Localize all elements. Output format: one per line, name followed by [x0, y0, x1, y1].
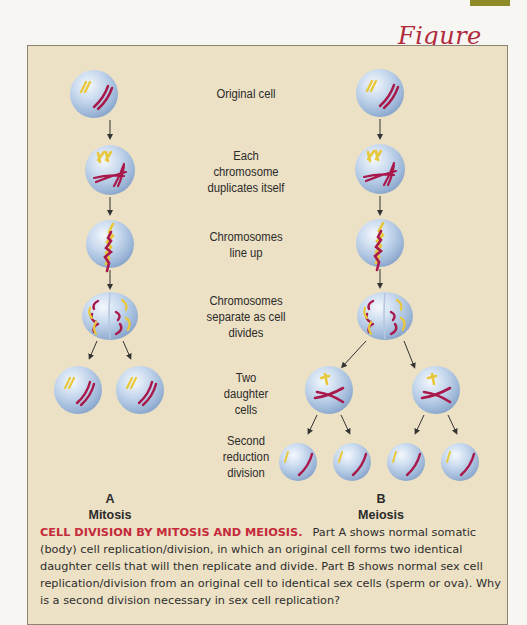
meiosis-column	[279, 69, 479, 481]
stage-line: duplicates itself	[183, 180, 309, 196]
stage-label-original-cell: Original cell	[183, 86, 309, 102]
stage-line: chromosome	[183, 164, 309, 180]
stage-label-duplicate: Each chromosome duplicates itself	[183, 148, 309, 196]
column-name: Mitosis	[60, 507, 160, 523]
stage-line: daughter	[183, 386, 309, 402]
stage-line: Each	[183, 148, 309, 164]
stage-line: cells	[183, 402, 309, 418]
stage-line: reduction	[183, 449, 309, 465]
stage-line: division	[183, 465, 309, 481]
stage-label-separate: Chromosomes separate as cell divides	[183, 293, 309, 341]
caption-title: CELL DIVISION BY MITOSIS AND MEIOSIS.	[40, 526, 303, 539]
stage-line: divides	[183, 325, 309, 341]
stage-line: Second	[183, 433, 309, 449]
column-letter: B	[331, 491, 431, 507]
column-label-meiosis: B Meiosis	[331, 491, 431, 523]
column-name: Meiosis	[331, 507, 431, 523]
stage-line: Two	[183, 370, 309, 386]
column-label-mitosis: A Mitosis	[60, 491, 160, 523]
stage-label-line-up: Chromosomes line up	[183, 229, 309, 261]
stage-line: Chromosomes	[183, 293, 309, 309]
stage-line: separate as cell	[183, 309, 309, 325]
figure-caption: CELL DIVISION BY MITOSIS AND MEIOSIS.Par…	[40, 524, 506, 609]
stage-label-daughter-cells: Two daughter cells	[183, 370, 309, 418]
stage-label-second-division: Second reduction division	[183, 433, 309, 481]
stage-line: line up	[183, 245, 309, 261]
mitosis-column	[54, 70, 164, 414]
column-letter: A	[60, 491, 160, 507]
stage-line: Chromosomes	[183, 229, 309, 245]
